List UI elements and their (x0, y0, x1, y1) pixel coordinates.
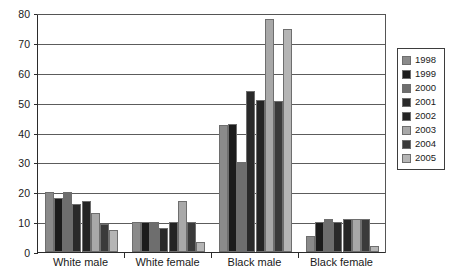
y-tick-label-80: 80 (0, 9, 30, 20)
y-tick-label-10: 10 (0, 218, 30, 229)
legend-label: 2000 (415, 83, 436, 93)
bar (72, 204, 81, 252)
bar (187, 222, 196, 252)
legend-label: 2004 (415, 139, 436, 149)
bar (219, 125, 228, 252)
bar (45, 192, 54, 252)
plot-area (37, 14, 385, 253)
bar (361, 219, 370, 252)
x-axis-category-labels: White maleWhite femaleBlack maleBlack fe… (37, 256, 385, 274)
plot-frame-right-border (385, 14, 386, 253)
chart-legend: 19981999200020012002200320042005 (397, 48, 445, 170)
legend-item-2001[interactable]: 2001 (402, 95, 441, 109)
bar (246, 91, 255, 252)
y-tick-label-70: 70 (0, 39, 30, 50)
bar (352, 219, 361, 252)
bar (274, 101, 283, 252)
bar (150, 222, 159, 252)
plot-frame-top-border (37, 14, 385, 15)
legend-swatch-icon (402, 84, 411, 93)
legend-swatch-icon (402, 126, 411, 135)
y-tick-label-30: 30 (0, 158, 30, 169)
y-tick-label-40: 40 (0, 128, 30, 139)
y-axis-tick-labels: 01020304050607080 (0, 0, 30, 280)
category-label-black-male: Black male (211, 256, 298, 268)
y-tick-label-20: 20 (0, 188, 30, 199)
bar-chart: 01020304050607080 White maleWhite female… (0, 0, 451, 280)
bars-layer (38, 14, 385, 252)
y-tick-label-60: 60 (0, 69, 30, 80)
legend-item-2005[interactable]: 2005 (402, 151, 441, 165)
bar (237, 162, 246, 252)
bar (141, 222, 150, 252)
bar (343, 219, 352, 252)
legend-item-2003[interactable]: 2003 (402, 123, 441, 137)
category-label-white-female: White female (124, 256, 211, 268)
bar (256, 100, 265, 252)
legend-swatch-icon (402, 154, 411, 163)
bar (315, 222, 324, 252)
y-tick-mark-0 (34, 253, 38, 254)
legend-item-2002[interactable]: 2002 (402, 109, 441, 123)
y-tick-label-50: 50 (0, 98, 30, 109)
legend-item-1998[interactable]: 1998 (402, 53, 441, 67)
legend-swatch-icon (402, 112, 411, 121)
category-label-black-female: Black female (298, 256, 385, 268)
legend-swatch-icon (402, 70, 411, 79)
legend-label: 1998 (415, 55, 436, 65)
y-tick-label-0: 0 (0, 248, 30, 259)
bar (159, 228, 168, 252)
bar (132, 222, 141, 252)
bar (82, 201, 91, 252)
bar (324, 219, 333, 252)
legend-label: 2001 (415, 97, 436, 107)
bar (283, 29, 292, 252)
legend-label: 1999 (415, 69, 436, 79)
bar (370, 246, 379, 252)
bar (228, 124, 237, 252)
category-label-white-male: White male (37, 256, 124, 268)
bar (333, 222, 342, 252)
bar (54, 198, 63, 252)
bar (169, 222, 178, 252)
legend-label: 2003 (415, 125, 436, 135)
bar (178, 201, 187, 252)
bar (306, 236, 315, 252)
bar (109, 230, 118, 252)
bar (63, 192, 72, 252)
bar (100, 224, 109, 252)
legend-item-2004[interactable]: 2004 (402, 137, 441, 151)
legend-swatch-icon (402, 56, 411, 65)
legend-label: 2002 (415, 111, 436, 121)
legend-label: 2005 (415, 153, 436, 163)
legend-item-2000[interactable]: 2000 (402, 81, 441, 95)
bar (91, 213, 100, 252)
bar (265, 19, 274, 252)
legend-swatch-icon (402, 140, 411, 149)
bar (196, 242, 205, 252)
legend-swatch-icon (402, 98, 411, 107)
legend-item-1999[interactable]: 1999 (402, 67, 441, 81)
